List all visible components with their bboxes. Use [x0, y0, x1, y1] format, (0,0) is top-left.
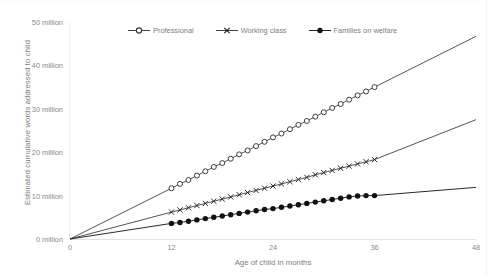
data-point-marker	[245, 209, 250, 214]
data-point-marker	[186, 177, 191, 182]
series-families-on-welfare	[70, 187, 476, 239]
data-point-marker	[287, 203, 292, 208]
data-point-marker	[203, 216, 208, 221]
data-point-marker	[169, 186, 174, 191]
data-point-marker	[186, 219, 191, 224]
data-point-marker	[254, 144, 259, 149]
data-point-marker	[177, 220, 182, 225]
data-point-marker	[228, 212, 233, 217]
data-point-marker	[220, 161, 225, 166]
data-point-marker	[211, 215, 216, 220]
data-point-marker	[355, 193, 360, 198]
data-point-marker	[194, 217, 199, 222]
chart-container: Estimated cumulative words addressed to …	[0, 0, 487, 277]
chart-series-layer	[0, 0, 487, 277]
data-point-marker	[363, 193, 368, 198]
data-point-marker	[338, 196, 343, 201]
data-point-marker	[372, 85, 377, 90]
data-point-marker	[253, 208, 258, 213]
data-point-marker	[347, 97, 352, 102]
data-point-marker	[330, 197, 335, 202]
data-point-marker	[364, 89, 369, 94]
data-point-marker	[220, 213, 225, 218]
data-point-marker	[287, 127, 292, 132]
data-point-marker	[245, 148, 250, 153]
data-point-marker	[279, 131, 284, 136]
x-tick-label: 48	[472, 243, 480, 252]
data-point-marker	[355, 93, 360, 98]
data-point-marker	[313, 114, 318, 119]
data-point-marker	[236, 211, 241, 216]
data-point-marker	[372, 193, 377, 198]
data-point-marker	[338, 102, 343, 107]
data-point-marker	[228, 156, 233, 161]
x-tick-label: 24	[269, 243, 277, 252]
x-tick-label: 12	[167, 243, 175, 252]
data-point-marker	[169, 221, 174, 226]
data-point-marker	[270, 206, 275, 211]
data-point-marker	[271, 135, 276, 140]
x-tick-label: 36	[370, 243, 378, 252]
data-point-marker	[304, 201, 309, 206]
data-point-marker	[313, 199, 318, 204]
data-point-marker	[296, 122, 301, 127]
data-point-marker	[296, 202, 301, 207]
data-point-marker	[262, 139, 267, 144]
data-point-marker	[330, 105, 335, 110]
series-line	[70, 187, 476, 239]
data-point-marker	[237, 152, 242, 157]
data-point-marker	[203, 169, 208, 174]
data-point-marker	[194, 173, 199, 178]
data-point-marker	[177, 181, 182, 186]
data-point-marker	[321, 198, 326, 203]
data-point-marker	[346, 194, 351, 199]
data-point-marker	[304, 118, 309, 123]
x-tick-label: 0	[68, 243, 72, 252]
data-point-marker	[321, 110, 326, 115]
data-point-marker	[211, 164, 216, 169]
data-point-marker	[279, 205, 284, 210]
data-point-marker	[262, 207, 267, 212]
